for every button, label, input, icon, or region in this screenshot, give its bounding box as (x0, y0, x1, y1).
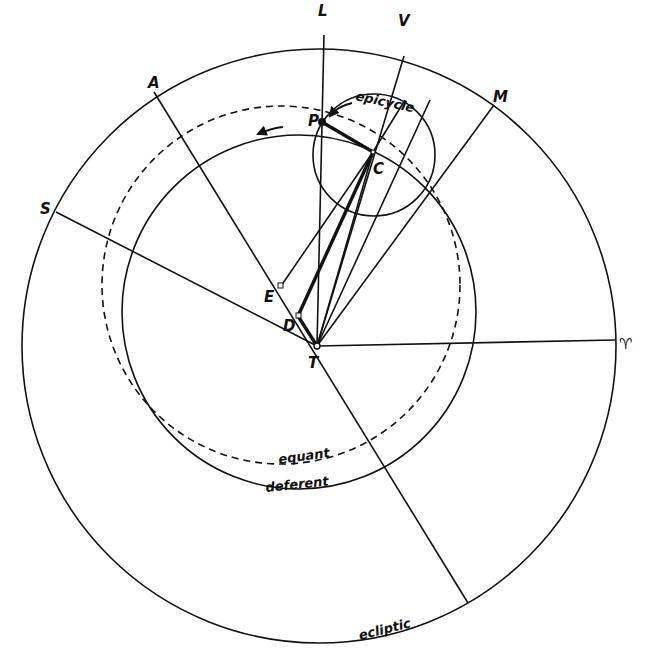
point-T-marker (314, 343, 320, 349)
line-T-C (317, 152, 373, 346)
label-equant: equant (277, 445, 331, 467)
point-P-marker (318, 118, 326, 126)
label-C: C (373, 160, 384, 178)
line-S-T (56, 212, 317, 346)
label-T: T (308, 354, 320, 372)
label-L: L (318, 2, 328, 20)
label-E: E (264, 288, 275, 306)
line-D-C (298, 152, 373, 316)
aries-symbol: ♈ (619, 335, 632, 353)
line-A-through-T (154, 92, 468, 603)
deferent-motion-arrow (258, 127, 283, 134)
line-T-epicycle-parallel (317, 100, 430, 346)
point-D-marker (296, 313, 301, 318)
label-P: P (308, 112, 319, 130)
line-T-aries (317, 340, 615, 346)
label-epicycle: epicycle (354, 88, 416, 115)
label-S: S (40, 200, 51, 218)
label-D: D (283, 317, 295, 335)
line-T-L (317, 35, 324, 346)
line-E-C (281, 152, 373, 286)
label-ecliptic: ecliptic (357, 615, 412, 642)
label-V: V (398, 12, 411, 30)
point-E-marker (278, 283, 283, 288)
label-deferent: deferent (265, 473, 330, 495)
ptolemaic-model-diagram: T D E C P L V M A S ♈ epicycle equant de… (0, 0, 650, 666)
label-A: A (147, 74, 160, 92)
label-M: M (493, 88, 508, 106)
diagram-stage: T D E C P L V M A S ♈ epicycle equant de… (0, 0, 650, 666)
point-C-marker (371, 150, 375, 154)
